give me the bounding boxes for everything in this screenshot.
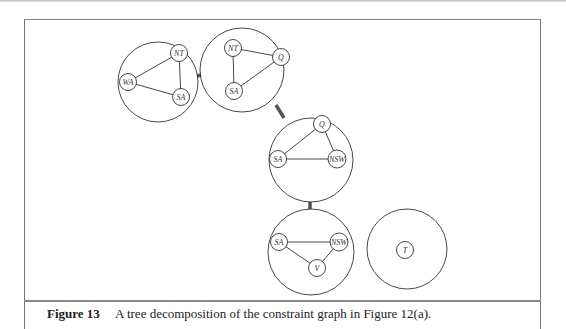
cluster-c4: SANSWV xyxy=(268,209,354,295)
cluster-c5: T xyxy=(367,209,447,289)
caption-label: Figure 13 xyxy=(47,306,115,322)
variable-label: Q xyxy=(319,120,325,129)
tree-edge xyxy=(276,105,284,118)
variable-label: Q xyxy=(278,53,284,62)
variable-label: NSW xyxy=(330,238,348,247)
cluster-c3: QSANSW xyxy=(269,116,353,203)
variable-label: T xyxy=(403,246,408,255)
variable-label: NT xyxy=(173,49,184,58)
cluster-circle xyxy=(200,28,284,112)
variable-label: WA xyxy=(123,78,134,87)
variable-label: NT xyxy=(227,44,238,53)
cluster-c2: NTQSA xyxy=(200,28,290,112)
variable-label: SA xyxy=(274,155,283,164)
figure-caption: Figure 13A tree decomposition of the con… xyxy=(47,306,431,322)
variable-label: SA xyxy=(275,238,284,247)
variable-label: SA xyxy=(230,87,239,96)
variable-label: SA xyxy=(177,93,186,102)
variable-label: NSW xyxy=(328,155,346,164)
cluster-circle xyxy=(268,209,354,295)
caption-text: A tree decomposition of the constraint g… xyxy=(115,306,431,321)
cluster-c1: WANTSA xyxy=(118,42,198,122)
